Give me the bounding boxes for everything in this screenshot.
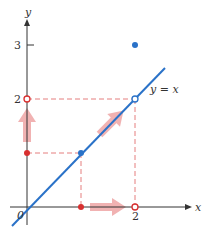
y-axis-label: y — [24, 6, 32, 19]
x-axis-label: x — [195, 201, 202, 214]
origin-label: 0 — [17, 209, 24, 222]
line-y-equals-x — [12, 68, 165, 226]
filled-point-2-3 — [132, 42, 138, 48]
axes — [10, 25, 185, 225]
diagram-canvas: y x 3 2 2 0 y = x — [0, 0, 206, 236]
y-tick-label-2: 2 — [14, 93, 21, 106]
filled-point-1-1 — [78, 150, 84, 156]
open-point-y2 — [24, 96, 30, 102]
open-point-2-2 — [132, 96, 138, 102]
x-axis-arrow-icon — [185, 204, 192, 210]
y-tick-label-3: 3 — [14, 39, 21, 52]
y-axis-arrow-icon — [24, 19, 30, 26]
line-label: y = x — [149, 83, 179, 96]
x-tick-label-2: 2 — [132, 210, 139, 223]
filled-point-x1 — [78, 204, 84, 210]
filled-point-y1 — [24, 150, 30, 156]
